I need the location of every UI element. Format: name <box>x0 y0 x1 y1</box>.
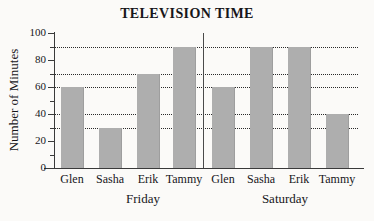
y-tick-label: 80 <box>6 54 46 65</box>
television-time-bar-chart: TELEVISION TIME Number of Minutes 020406… <box>0 0 374 221</box>
gridline <box>55 47 358 48</box>
y-tick-major <box>48 33 55 34</box>
gridline <box>55 74 358 75</box>
y-tick-label: 60 <box>6 81 46 92</box>
bar <box>212 87 235 168</box>
y-tick-major <box>48 168 55 169</box>
bar <box>173 47 196 169</box>
group-divider <box>203 33 204 168</box>
x-axis-line <box>44 168 364 169</box>
gridline <box>55 87 358 88</box>
y-tick-label: 0 <box>6 162 46 173</box>
bar <box>250 47 273 169</box>
y-tick-label: 40 <box>6 108 46 119</box>
y-tick-label: 100 <box>6 27 46 38</box>
y-axis-title: Number of Minutes <box>6 30 22 170</box>
y-tick-major <box>48 141 55 142</box>
bar <box>137 74 160 169</box>
bar <box>61 87 84 168</box>
plot-area <box>55 33 358 168</box>
gridline <box>55 114 358 115</box>
bar <box>99 128 122 169</box>
y-tick-major <box>48 114 55 115</box>
group-label: Friday <box>96 191 190 207</box>
y-tick-label: 20 <box>6 135 46 146</box>
y-tick-major <box>48 87 55 88</box>
category-label: Tammy <box>313 172 361 187</box>
bar <box>288 47 311 169</box>
group-label: Saturday <box>238 191 332 207</box>
bar <box>326 114 349 168</box>
y-tick-major <box>48 60 55 61</box>
chart-title: TELEVISION TIME <box>0 6 374 22</box>
